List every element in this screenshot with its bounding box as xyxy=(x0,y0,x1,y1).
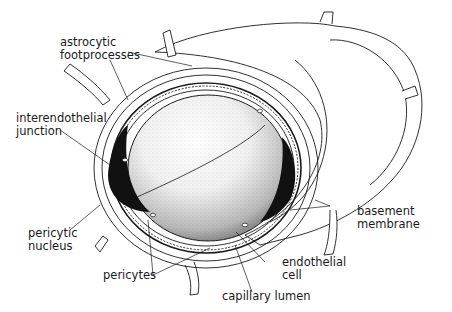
label-basement-membrane: basement membrane xyxy=(357,205,420,231)
label-astrocytic-footprocesses: astrocytic footprocesses xyxy=(60,36,140,62)
label-capillary-lumen: capillary lumen xyxy=(222,290,311,303)
label-pericytes: pericytes xyxy=(103,269,156,282)
label-endothelial-cell: endothelial cell xyxy=(282,256,346,282)
capillary-diagram: astrocytic footprocesses interendothelia… xyxy=(0,0,452,312)
label-interendothelial-junction: interendothelial junction xyxy=(16,112,107,138)
label-pericytic-nucleus: pericytic nucleus xyxy=(28,227,77,253)
